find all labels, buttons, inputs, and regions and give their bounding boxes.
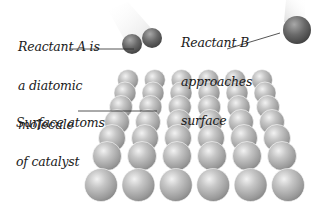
catalyst-atom (197, 169, 230, 202)
catalyst-atom (198, 142, 227, 171)
catalyst-atom (163, 142, 192, 171)
atom-a1 (122, 34, 142, 54)
catalyst-atom (272, 169, 305, 202)
label-line: surface (181, 114, 252, 127)
catalyst-atom (233, 142, 262, 171)
catalyst-atom (122, 169, 155, 202)
label-catalyst: Surface atoms of catalyst (16, 90, 105, 181)
atom-b (283, 16, 311, 44)
catalyst-atom (128, 142, 157, 171)
label-line: Reactant B (181, 36, 252, 49)
atom-a2 (142, 28, 162, 48)
catalyst-atom (159, 169, 192, 202)
reactant-a-molecule (108, 2, 162, 54)
label-line: of catalyst (16, 155, 105, 168)
label-reactant-b: Reactant B approaches surface (181, 10, 252, 140)
catalyst-atom (268, 142, 297, 171)
reactant-b-atom (283, 0, 311, 44)
label-line: Surface atoms (16, 116, 105, 129)
label-line: Reactant A is (18, 40, 100, 53)
label-line: approaches (181, 75, 252, 88)
catalyst-atom (234, 169, 267, 202)
